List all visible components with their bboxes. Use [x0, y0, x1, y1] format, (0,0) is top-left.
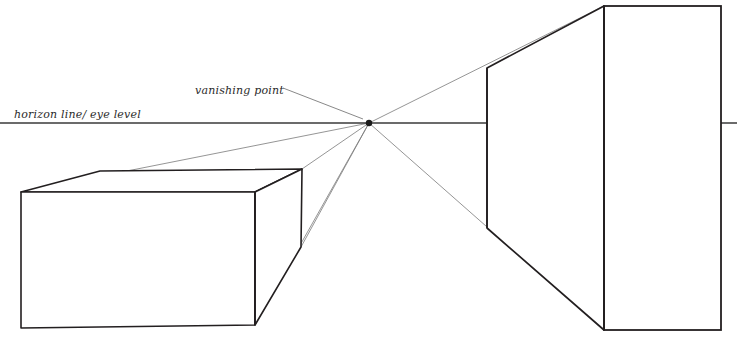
left-box-front-face	[21, 192, 255, 328]
right-box-front-face	[604, 6, 721, 330]
perspective-diagram-canvas: horizon line/ eye level vanishing point	[0, 0, 737, 343]
vanishing-point-label: vanishing point	[195, 84, 284, 97]
right-box	[487, 6, 721, 330]
left-box-top-face	[21, 169, 302, 192]
right-box-left-face	[487, 6, 604, 330]
vanishing-point-leader-line	[283, 88, 363, 119]
left-box-right-face	[255, 169, 302, 325]
horizon-line-label: horizon line/ eye level	[14, 108, 141, 121]
vanishing-point-dot	[366, 120, 372, 126]
perspective-drawing	[0, 0, 737, 343]
left-box	[21, 169, 302, 328]
